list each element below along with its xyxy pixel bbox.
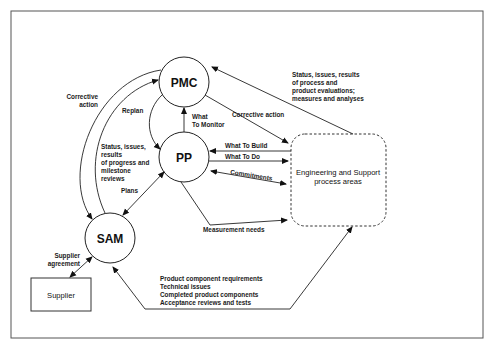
what-to-do-label: What To Do [225, 153, 260, 160]
sam-label: SAM [97, 232, 124, 246]
engineering-label-line1: Engineering and Support [296, 168, 381, 177]
svg-text:What: What [192, 113, 208, 120]
pmc-label: PMC [171, 76, 198, 90]
svg-text:agreement: agreement [48, 260, 81, 268]
svg-text:of process and: of process and [292, 79, 338, 87]
svg-text:To Monitor: To Monitor [192, 121, 225, 128]
svg-text:of progress and: of progress and [101, 159, 149, 167]
svg-text:Technical issues: Technical issues [160, 283, 211, 290]
svg-text:reviews: reviews [101, 175, 125, 182]
replan-arrow [149, 95, 162, 149]
svg-text:milestone: milestone [101, 167, 131, 174]
svg-text:Product component requirements: Product component requirements [160, 275, 263, 283]
svg-text:Status, issues, results: Status, issues, results [292, 71, 360, 79]
svg-text:Acceptance reviews and tests: Acceptance reviews and tests [160, 299, 251, 307]
svg-text:measures and analyses: measures and analyses [292, 95, 364, 103]
svg-text:Supplier: Supplier [54, 252, 80, 260]
pp-node: PP [159, 132, 209, 182]
svg-text:Status, issues,: Status, issues, [101, 143, 146, 151]
pmc-node: PMC [159, 57, 209, 107]
sam-node: SAM [85, 213, 135, 263]
what-to-monitor-label: What To Monitor [192, 113, 225, 128]
corrective-action-label: Corrective action [66, 93, 98, 108]
supplier-agreement-label: Supplier agreement [48, 252, 81, 268]
corrective-action-eng-label: Corrective action [232, 111, 284, 118]
supplier-label: Supplier [47, 291, 75, 300]
what-to-build-label: What To Build [225, 142, 268, 149]
engineering-support-node: Engineering and Support process areas [291, 134, 386, 226]
commitments-label: Commitments [230, 168, 274, 182]
svg-text:product evaluations;: product evaluations; [292, 87, 355, 95]
measurement-needs-arrow [181, 182, 287, 225]
plans-label: Plans [121, 187, 138, 194]
replan-label: Replan [122, 107, 143, 115]
svg-text:Corrective: Corrective [66, 93, 98, 100]
supplier-node: Supplier [31, 278, 91, 311]
product-components-label: Product component requirements Technical… [160, 275, 263, 307]
status-progress-label: Status, issues, results of progress and … [101, 143, 149, 182]
svg-text:Completed product components: Completed product components [160, 291, 259, 299]
corrective-action-eng-arrow [205, 95, 288, 143]
measurement-needs-label: Measurement needs [203, 226, 265, 233]
process-area-diagram: PMC PP SAM Supplier Engineering and Supp… [0, 0, 495, 349]
svg-text:action: action [79, 101, 98, 108]
engineering-label-line2: process areas [314, 177, 362, 186]
status-evaluation-label: Status, issues, results of process and p… [292, 71, 364, 103]
pp-label: PP [176, 151, 192, 165]
svg-text:results: results [101, 151, 122, 158]
